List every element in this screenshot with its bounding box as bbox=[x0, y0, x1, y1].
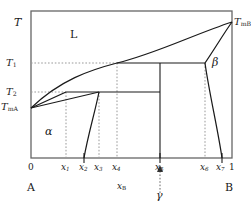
x-tick-x3: x3 bbox=[94, 163, 103, 173]
phase-label-gamma: γ bbox=[156, 190, 163, 201]
curve-alpha-solidus bbox=[31, 92, 99, 108]
curve-liquidus bbox=[31, 22, 232, 108]
x-tick-x5: x5 bbox=[155, 163, 164, 173]
y-tick-TmA: TmA bbox=[1, 102, 18, 112]
y-tick-T1: T1 bbox=[6, 58, 17, 68]
x-tick-x2: x2 bbox=[79, 163, 88, 173]
label-TmB: TmB bbox=[234, 17, 251, 27]
curve-beta-solvus bbox=[205, 63, 222, 158]
phase-diagram-figure bbox=[0, 0, 251, 205]
y-tick-T2: T2 bbox=[6, 87, 17, 97]
corner-label-A: A bbox=[27, 182, 35, 193]
curve-alpha-solvus bbox=[84, 92, 99, 158]
y-axis-label: T bbox=[14, 17, 21, 28]
corner-label-B: B bbox=[225, 182, 233, 193]
phase-label-liquid: L bbox=[70, 29, 77, 40]
x-tick-x6: x6 bbox=[200, 163, 209, 173]
curve-beta-liquidus bbox=[205, 22, 232, 63]
x-tick-x1: x1 bbox=[61, 163, 70, 173]
phase-label-alpha: α bbox=[45, 126, 52, 137]
x-tick-0: 0 bbox=[28, 163, 34, 172]
x-tick-x4: x4 bbox=[112, 163, 121, 173]
segment-TmA-to-x1 bbox=[31, 92, 66, 108]
x-axis-label: xB bbox=[117, 182, 126, 192]
phase-label-beta: β bbox=[212, 57, 218, 68]
x-tick-x7: x7 bbox=[216, 163, 225, 173]
x-tick-1: 1 bbox=[229, 163, 235, 172]
